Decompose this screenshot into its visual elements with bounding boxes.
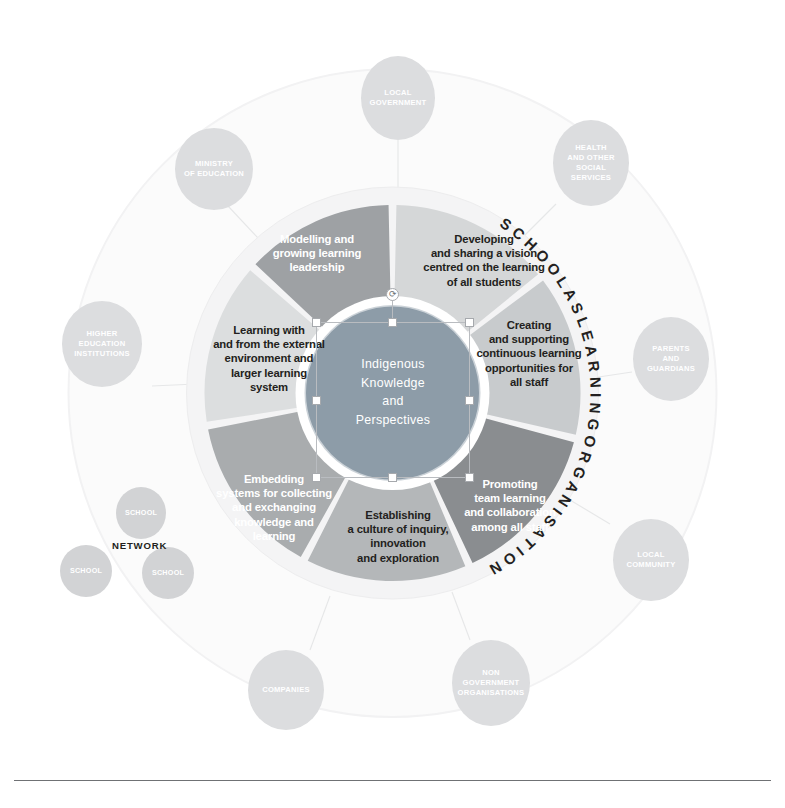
stakeholder-non-government-organisations[interactable]: NON GOVERNMENT ORGANISATIONS xyxy=(452,640,530,726)
stakeholder-local-community[interactable]: LOCAL COMMUNITY xyxy=(613,519,689,601)
resize-handle-top-left[interactable] xyxy=(312,318,321,327)
resize-handle-bottom-right[interactable] xyxy=(465,473,474,482)
resize-handle-middle-left[interactable] xyxy=(312,396,321,405)
stakeholder-local-government[interactable]: LOCAL GOVERNMENT xyxy=(361,56,435,140)
resize-handle-top-center[interactable] xyxy=(388,318,397,327)
network-school-right[interactable]: SCHOOL xyxy=(142,547,194,599)
stakeholder-companies[interactable]: COMPANIES xyxy=(248,650,324,730)
stakeholder-ministry-of-education[interactable]: MINISTRY OF EDUCATION xyxy=(175,128,253,210)
selection-bounding-box[interactable] xyxy=(316,322,470,478)
resize-handle-middle-right[interactable] xyxy=(465,396,474,405)
network-school-top[interactable]: SCHOOL xyxy=(116,487,166,539)
stakeholder-higher-education-institutions[interactable]: HIGHER EDUCATION INSTITUTIONS xyxy=(62,301,142,387)
footer-divider xyxy=(14,780,771,781)
diagram-canvas: S C H O O L A S L E A R N I N G O R G A … xyxy=(0,0,785,808)
stakeholder-health-social-services[interactable]: HEALTH AND OTHER SOCIAL SERVICES xyxy=(553,120,629,206)
network-cluster-label: NETWORK xyxy=(112,540,167,551)
resize-handle-bottom-left[interactable] xyxy=(312,473,321,482)
stakeholder-parents-guardians[interactable]: PARENTS AND GUARDIANS xyxy=(633,317,709,401)
resize-handle-top-right[interactable] xyxy=(465,318,474,327)
rotate-handle[interactable]: ⟳ xyxy=(386,288,399,301)
resize-handle-bottom-center[interactable] xyxy=(388,473,397,482)
network-school-left[interactable]: SCHOOL xyxy=(60,545,112,597)
